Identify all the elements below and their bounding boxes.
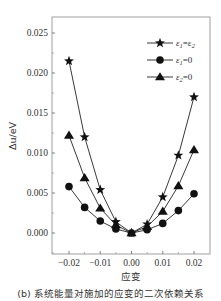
- triangle-marker-icon: [95, 203, 105, 211]
- star-marker-icon: [173, 150, 183, 159]
- series-line: [69, 135, 194, 233]
- x-axis-ticks: −0.02−0.010.000.010.02: [58, 251, 203, 268]
- circle-marker-icon: [175, 207, 183, 215]
- triangle-marker-icon: [155, 72, 165, 80]
- x-axis-label: 应变: [121, 271, 141, 282]
- legend-label: ε2=0: [176, 72, 193, 83]
- legend: ε1=ε2ε1=0ε2=0: [147, 38, 196, 83]
- y-tick-label: 0.005: [27, 188, 49, 198]
- circle-marker-icon: [190, 190, 198, 198]
- y-tick-label: 0.000: [27, 228, 49, 238]
- x-tick-label: 0.02: [186, 258, 203, 268]
- x-tick-label: 0.01: [154, 258, 171, 268]
- triangle-marker-icon: [158, 207, 168, 215]
- y-tick-label: 0.010: [27, 148, 49, 158]
- star-marker-icon: [64, 56, 74, 65]
- circle-marker-icon: [81, 204, 89, 212]
- star-marker-icon: [158, 192, 168, 201]
- plot-frame: [52, 17, 210, 254]
- x-tick-label: −0.02: [58, 258, 80, 268]
- strain-energy-chart: 0.0000.0050.0100.0150.0200.025 −0.02−0.0…: [0, 0, 221, 285]
- circle-marker-icon: [159, 220, 167, 228]
- plot-border: [52, 17, 210, 254]
- legend-label: ε1=ε2: [176, 38, 196, 49]
- triangle-marker-icon: [80, 173, 90, 181]
- circle-marker-icon: [65, 183, 73, 191]
- star-marker-icon: [80, 132, 90, 141]
- series-triangle: [64, 131, 199, 237]
- y-tick-label: 0.025: [27, 28, 49, 38]
- x-tick-label: 0.00: [123, 258, 140, 268]
- y-axis-label: Δu/eV: [7, 121, 18, 150]
- circle-marker-icon: [156, 56, 164, 64]
- triangle-marker-icon: [173, 181, 183, 189]
- figure-caption: (b) 系统能量对施加的应变的二次依赖关系: [0, 286, 221, 300]
- star-marker-icon: [95, 185, 105, 194]
- triangle-marker-icon: [64, 131, 74, 139]
- star-marker-icon: [155, 38, 165, 47]
- y-tick-label: 0.015: [27, 108, 49, 118]
- circle-marker-icon: [96, 217, 104, 225]
- x-tick-label: −0.01: [89, 258, 111, 268]
- y-tick-label: 0.020: [27, 68, 49, 78]
- star-marker-icon: [189, 92, 199, 101]
- legend-label: ε1=0: [176, 55, 193, 66]
- y-axis-ticks: 0.0000.0050.0100.0150.0200.025: [27, 28, 55, 253]
- triangle-marker-icon: [189, 145, 199, 153]
